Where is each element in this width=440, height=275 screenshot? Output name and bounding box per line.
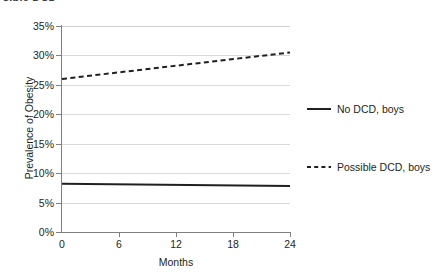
y-axis-title: Prevalence of Obesity [23, 53, 35, 203]
series-line [62, 52, 290, 78]
y-tick-label: 20% [14, 109, 54, 120]
y-tick-label: 5% [14, 198, 54, 209]
line-chart-figure: Prevalence of Obesity 0%5%10%15%20%25%30… [0, 0, 440, 275]
y-tick-mark [56, 55, 61, 56]
series-line [62, 184, 290, 186]
y-tick-mark [56, 85, 61, 86]
x-tick-label: 12 [161, 239, 191, 250]
y-tick-mark [56, 173, 61, 174]
y-tick-mark [56, 232, 61, 233]
y-tick-label: 10% [14, 168, 54, 179]
x-tick-mark [290, 233, 291, 237]
x-tick-label: 18 [218, 239, 248, 250]
y-tick-mark [56, 26, 61, 27]
legend-label: No DCD, boys [337, 104, 404, 115]
legend-entry[interactable]: Possible DCD, boys [307, 162, 430, 173]
plot-area [62, 26, 290, 232]
legend-label: Possible DCD, boys [337, 162, 430, 173]
x-tick-label: 24 [275, 239, 305, 250]
x-tick-label: 0 [47, 239, 77, 250]
legend-dashed-line-icon [307, 162, 331, 172]
legend-entry[interactable]: No DCD, boys [307, 104, 404, 115]
y-tick-mark [56, 144, 61, 145]
y-tick-label: 0% [14, 227, 54, 238]
y-tick-label: 30% [14, 50, 54, 61]
x-tick-label: 6 [104, 239, 134, 250]
x-tick-mark [233, 233, 234, 237]
y-tick-label: 15% [14, 139, 54, 150]
x-axis-title: Months [62, 256, 290, 268]
x-tick-mark [176, 233, 177, 237]
y-tick-label: 35% [14, 21, 54, 32]
y-tick-mark [56, 203, 61, 204]
x-tick-mark [119, 233, 120, 237]
series-lines [62, 26, 290, 232]
y-tick-mark [56, 114, 61, 115]
legend-solid-line-icon [307, 104, 331, 114]
y-tick-label: 25% [14, 80, 54, 91]
